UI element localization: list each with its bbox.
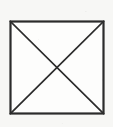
figure-canvas: Square with both diagonals drawn: [0, 0, 113, 127]
square-with-diagonals-figure: Square with both diagonals drawn: [0, 0, 113, 127]
